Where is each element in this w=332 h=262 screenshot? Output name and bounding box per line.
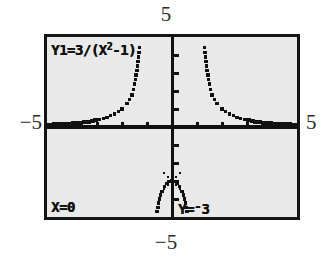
graph-svg xyxy=(47,37,297,217)
trace-x-readout: X=0 xyxy=(51,200,75,214)
window-ymax-label: 5 xyxy=(0,4,332,25)
window-xmax-label: 5 xyxy=(306,112,332,133)
axes-group xyxy=(47,37,297,217)
lcd-frame: Y1=3/(X2-1) X=0 Y=-3 xyxy=(44,34,300,220)
equation-prefix: Y1=3/(X xyxy=(51,42,107,58)
trace-y-prefix: Y= xyxy=(178,201,194,217)
trace-y-readout: Y=-3 xyxy=(178,200,209,216)
equation-label: Y1=3/(X2-1) xyxy=(51,42,136,57)
window-xmin-label: −5 xyxy=(2,112,42,133)
calculator-screen: 5 −5 5 −5 Y1=3/(X2-1) X=0 Y=-3 xyxy=(0,0,332,262)
equation-suffix: -1) xyxy=(112,42,136,58)
window-ymin-label: −5 xyxy=(0,232,332,253)
graph-plot-area[interactable] xyxy=(47,37,297,217)
trace-y-value: 3 xyxy=(201,201,209,217)
